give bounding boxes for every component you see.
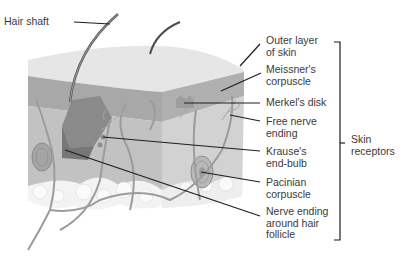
label-free-nerve-ending: Free nerve ending <box>266 116 317 139</box>
label-hair-follicle-nerve: Nerve ending around hair follicle <box>266 206 328 241</box>
label-meissner-corpuscle: Meissner's corpuscle <box>266 64 316 87</box>
label-skin-receptors: Skin receptors <box>351 134 395 157</box>
label-pacinian-corpuscle: Pacinian corpuscle <box>266 177 311 200</box>
skin-diagram: Hair shaft Outer layer of skin Meissner'… <box>0 0 420 259</box>
label-krause-end-bulb: Krause's end-bulb <box>266 146 307 169</box>
label-hair-shaft: Hair shaft <box>4 16 49 28</box>
skin-cross-section-illustration <box>0 0 420 259</box>
label-merkel-disk: Merkel's disk <box>266 97 326 109</box>
label-outer-layer: Outer layer of skin <box>266 35 318 58</box>
